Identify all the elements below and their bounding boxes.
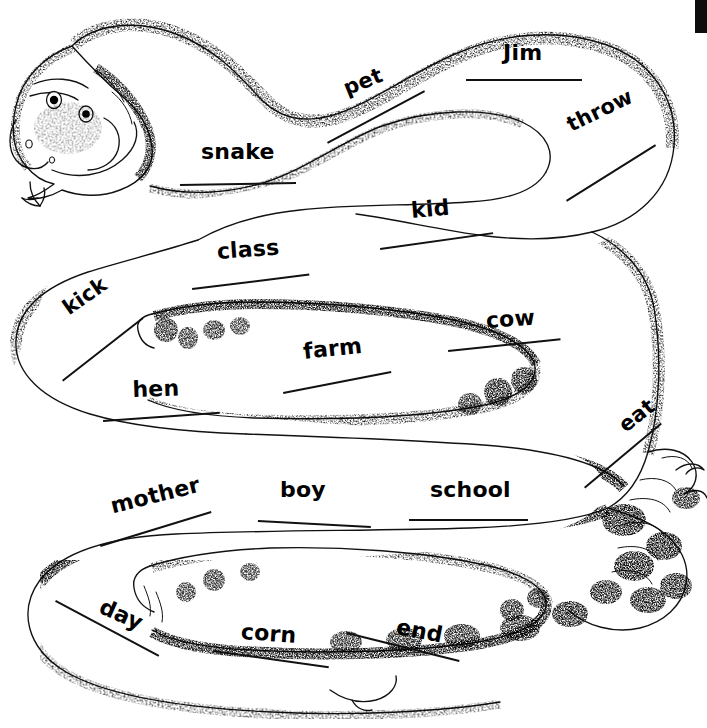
word-label-corn: corn bbox=[240, 619, 297, 648]
answer-blank-school[interactable] bbox=[409, 519, 528, 521]
answer-blank-jim[interactable] bbox=[466, 79, 582, 81]
black-edge-bar bbox=[695, 0, 707, 33]
worksheet-page: snakepetJimthrowkidclasskickfarmcowhenea… bbox=[0, 0, 707, 728]
word-label-cow: cow bbox=[485, 305, 536, 333]
word-label-kid: kid bbox=[410, 195, 451, 223]
word-label-jim: Jim bbox=[503, 40, 542, 65]
word-label-snake: snake bbox=[201, 139, 275, 164]
word-label-class: class bbox=[216, 235, 280, 264]
word-label-school: school bbox=[430, 477, 511, 502]
word-label-hen: hen bbox=[132, 375, 180, 402]
word-label-boy: boy bbox=[280, 477, 326, 502]
